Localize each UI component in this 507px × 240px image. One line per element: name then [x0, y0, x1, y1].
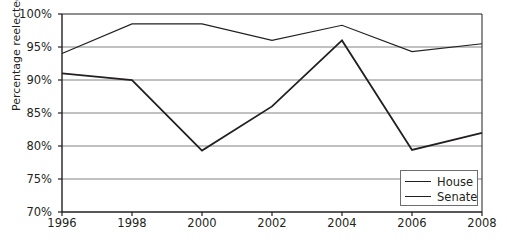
legend-swatch-senate-icon	[405, 196, 431, 197]
legend-item-house[interactable]: House	[401, 174, 477, 189]
series-line-house	[62, 40, 482, 150]
legend-item-senate[interactable]: Senate	[401, 189, 477, 204]
legend-label: House	[437, 175, 473, 189]
line-chart: Percentage reelected 70%75%80%85%90%95%1…	[0, 0, 507, 240]
chart-legend: HouseSenate	[400, 170, 478, 206]
legend-label: Senate	[437, 190, 477, 204]
legend-swatch-house-icon	[405, 181, 431, 182]
series-line-senate	[62, 24, 482, 54]
